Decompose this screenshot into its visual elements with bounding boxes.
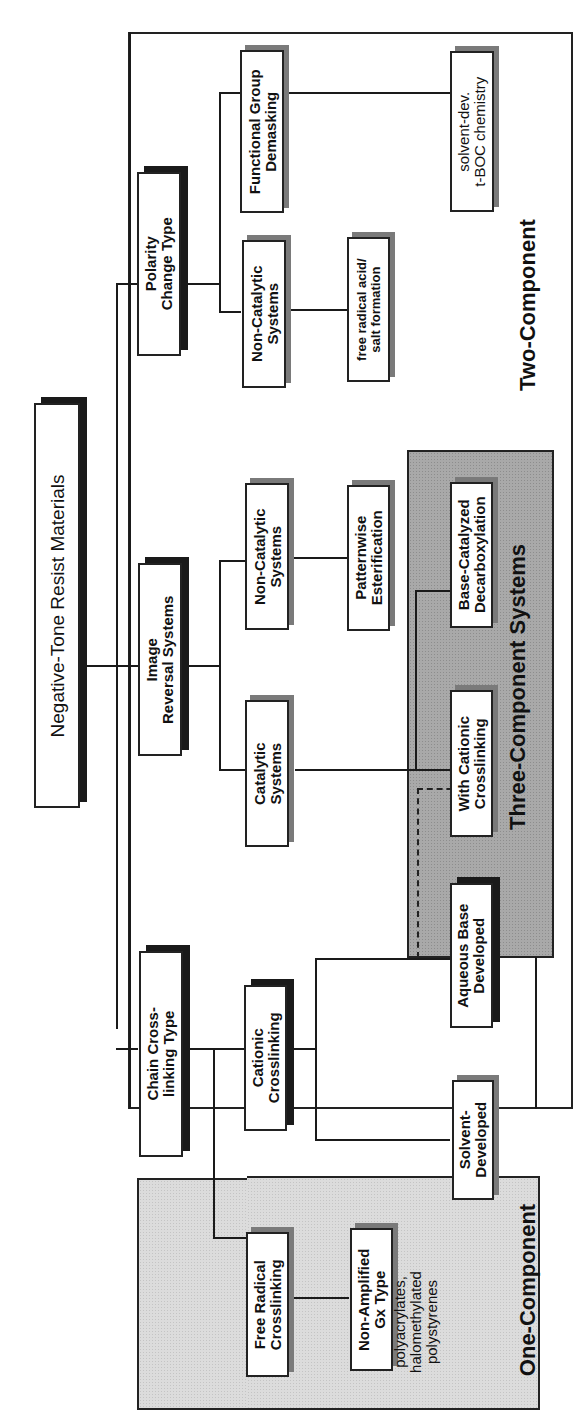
connector — [415, 590, 417, 770]
node-free-radical-crosslinking: Free Radical Crosslinking — [246, 1232, 289, 1377]
node-tboc-chemistry: solvent-dev. t-BOC chemistry — [450, 51, 494, 212]
connector — [188, 1048, 244, 1050]
connector — [315, 958, 317, 1140]
root-label: Negative-Tone Resist Materials — [47, 474, 67, 737]
label-one-component: One-Component — [515, 1200, 545, 1380]
node-solvent-developed: Solvent- Developed — [452, 1080, 494, 1200]
connector — [315, 1139, 450, 1141]
connector — [219, 560, 245, 562]
connector — [219, 560, 221, 770]
root-node: Negative-Tone Resist Materials — [34, 403, 80, 808]
node-polarity-change: Polarity Change Type — [137, 172, 181, 356]
connector — [293, 1048, 317, 1050]
connector — [185, 283, 220, 285]
node-non-amplified-gx: Non-Amplified Gx Type — [350, 1228, 393, 1371]
connector — [116, 284, 118, 1029]
connector — [213, 1048, 215, 1238]
node-base-catalyzed-decarboxylation: Base-Catalyzed Decarboxylation — [450, 482, 493, 628]
node-aqueous-base-developed: Aqueous Base Developed — [450, 883, 493, 1028]
connector — [535, 957, 537, 1109]
connector — [187, 665, 221, 667]
node-image-reversal-catalytic: Catalytic Systems — [245, 700, 289, 847]
connector — [219, 92, 241, 94]
note-non-amplified-examples: polyacrylates, halomethylated polystyren… — [392, 1242, 444, 1402]
node-free-radical-acid-salt: free radical acid/ salt formation — [347, 237, 390, 382]
node-polarity-noncatalytic: Non-Catalytic Systems — [242, 240, 286, 388]
one-component-panel — [137, 1178, 250, 1410]
dashed-connector — [417, 788, 419, 958]
connector — [129, 32, 131, 1109]
connector — [116, 283, 138, 285]
node-image-reversal: Image Reversal Systems — [138, 563, 182, 756]
label-three-component: Three-Component Systems — [505, 580, 535, 830]
node-chain-crosslinking: Chain Cross- linking Type — [139, 951, 183, 1157]
connector — [285, 92, 450, 94]
node-functional-group-demasking: Functional Group Demasking — [240, 50, 284, 213]
connector — [219, 769, 245, 771]
connector — [285, 309, 347, 311]
node-image-reversal-noncatalytic: Non-Catalytic Systems — [245, 483, 289, 630]
connector — [290, 557, 348, 559]
connector — [219, 92, 221, 312]
connector — [213, 1237, 246, 1239]
connector — [116, 1048, 138, 1050]
connector — [293, 1297, 349, 1299]
connector — [295, 769, 472, 771]
node-patternwise-esterification: Patternwise Esterification — [347, 485, 390, 631]
node-cationic-crosslinking: Cationic Crosslinking — [244, 985, 287, 1131]
label-two-component: Two-Component — [515, 215, 545, 395]
node-with-cationic-crosslinking: With Cationic Crosslinking — [450, 690, 493, 837]
connector — [315, 958, 472, 960]
connector — [219, 311, 241, 313]
